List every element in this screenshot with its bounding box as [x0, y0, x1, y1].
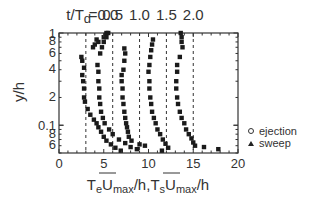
data-point — [123, 116, 127, 120]
data-point — [106, 31, 110, 35]
data-point — [100, 45, 104, 49]
top-annotation-prefix: t/T — [66, 6, 84, 23]
data-point — [113, 146, 117, 150]
data-point — [158, 132, 162, 136]
data-point — [101, 116, 105, 120]
data-point — [143, 143, 147, 147]
top-annotations: t/Td=0.00.51.01.52.0 — [66, 6, 203, 26]
data-point — [117, 137, 121, 141]
data-point — [148, 55, 152, 59]
x-axis-title-part: max — [176, 183, 197, 195]
x-axis-title-text: TeUmax/h,TsUmax/h — [87, 176, 209, 195]
x-axis-title-part: T — [150, 176, 159, 193]
data-point — [125, 125, 129, 129]
data-point — [174, 79, 178, 83]
data-point — [179, 31, 183, 35]
data-point — [82, 66, 86, 70]
data-point — [96, 70, 100, 74]
data-point — [166, 146, 170, 150]
data-point — [119, 73, 123, 77]
data-point — [109, 142, 113, 146]
data-point — [98, 51, 102, 55]
legend-ejection-label: ejection — [259, 125, 297, 137]
x-axis-title-part: max — [113, 183, 134, 195]
data-point — [178, 110, 182, 114]
x-tick-label: 0 — [55, 156, 62, 171]
x-axis-title-part: U — [102, 176, 113, 193]
data-point — [85, 107, 89, 111]
y-axis: 186420.186 — [38, 26, 238, 153]
legend-sweep-label: sweep — [259, 137, 291, 149]
data-point — [193, 143, 197, 147]
data-point — [147, 86, 151, 90]
data-point — [180, 45, 184, 49]
data-point — [122, 110, 126, 114]
y-tick-label: 6 — [49, 45, 56, 60]
data-point — [187, 132, 191, 136]
data-point — [149, 48, 153, 52]
data-point — [129, 138, 133, 142]
data-point — [95, 63, 99, 67]
data-point — [174, 86, 178, 90]
data-point — [148, 95, 152, 99]
data-point — [178, 55, 182, 59]
data-point — [175, 70, 179, 74]
data-point — [102, 135, 106, 139]
data-point — [135, 147, 139, 151]
data-point — [81, 79, 85, 83]
x-tick-label: 5 — [100, 156, 107, 171]
data-point — [120, 86, 124, 90]
y-tick-label: 4 — [49, 61, 56, 76]
data-point — [151, 37, 155, 41]
data-point — [127, 135, 131, 139]
y-tick-label: 2 — [49, 89, 56, 104]
x-axis-title-part: /h, — [134, 176, 151, 193]
data-point — [122, 59, 126, 63]
x-tick-label: 10 — [141, 156, 155, 171]
data-point — [121, 102, 125, 106]
data-point — [137, 142, 141, 146]
data-point — [150, 42, 154, 46]
data-point — [82, 86, 86, 90]
data-point — [175, 95, 179, 99]
data-point — [153, 121, 157, 125]
data-point — [122, 46, 126, 50]
data-point — [120, 95, 124, 99]
x-axis-title-part: /h — [197, 176, 210, 193]
data-point — [80, 73, 84, 77]
data-point — [99, 130, 103, 134]
data-point — [102, 40, 106, 44]
legend: ejection sweep — [248, 125, 297, 149]
data-point — [82, 95, 86, 99]
data-point — [98, 102, 102, 106]
data-point — [123, 51, 127, 55]
y-tick-label: 6 — [49, 137, 56, 152]
data-point — [107, 127, 111, 131]
data-point — [104, 35, 108, 39]
data-point — [147, 79, 151, 83]
data-point — [88, 113, 92, 117]
data-point — [202, 145, 206, 149]
data-point — [128, 145, 132, 149]
x-axis-title-part: U — [165, 176, 176, 193]
data-point — [182, 121, 186, 125]
data-point — [176, 102, 180, 106]
data-point — [160, 148, 164, 152]
x-tick-label: 15 — [186, 156, 200, 171]
legend-sweep-marker — [248, 141, 254, 146]
top-annotation-label: 1.5 — [156, 6, 177, 23]
y-axis-title: y/h — [10, 82, 27, 102]
data-point — [119, 148, 123, 152]
data-point — [96, 79, 100, 83]
data-point — [189, 136, 193, 140]
data-point — [179, 40, 183, 44]
top-annotation-label: 0.5 — [102, 6, 123, 23]
data-point — [79, 55, 83, 59]
top-annotation-label: 1.0 — [129, 6, 150, 23]
data-point — [83, 99, 87, 103]
data-point — [179, 35, 183, 39]
data-point — [161, 137, 165, 141]
data-point — [175, 63, 179, 67]
data-point — [80, 59, 84, 63]
data-point — [104, 138, 108, 142]
